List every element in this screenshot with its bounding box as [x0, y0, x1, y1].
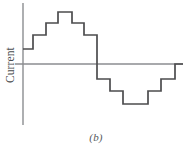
- figure-caption: (b): [0, 130, 192, 144]
- figure-container: Current (b): [0, 0, 192, 156]
- current-waveform-line: [23, 12, 183, 104]
- y-axis-label: Current: [4, 46, 16, 83]
